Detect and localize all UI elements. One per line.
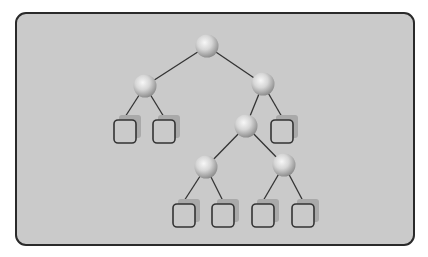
- leaf-square: [271, 120, 293, 143]
- leaf-square: [292, 204, 314, 227]
- leaf-box: [212, 199, 239, 227]
- leaf-square: [212, 204, 234, 227]
- leaf-box: [114, 115, 141, 143]
- leaf-square: [173, 204, 195, 227]
- sphere-node: [273, 154, 296, 177]
- sphere-node: [235, 115, 258, 138]
- leaf-square: [114, 120, 136, 143]
- sphere-node: [196, 35, 219, 58]
- sphere-node: [134, 75, 157, 98]
- leaf-box: [252, 199, 279, 227]
- sphere-node: [252, 73, 275, 96]
- leaf-box: [292, 199, 319, 227]
- leaf-box: [271, 115, 298, 143]
- leaf-box: [173, 199, 200, 227]
- leaf-square: [252, 204, 274, 227]
- leaf-square: [153, 120, 175, 143]
- binary-tree-diagram: [0, 0, 428, 257]
- leaf-box: [153, 115, 180, 143]
- sphere-node: [195, 156, 218, 179]
